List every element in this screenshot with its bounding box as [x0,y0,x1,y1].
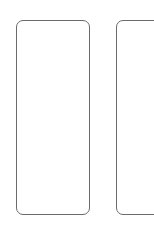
card-panel-1[interactable] [16,20,90,215]
card-panel-2[interactable] [116,20,154,215]
